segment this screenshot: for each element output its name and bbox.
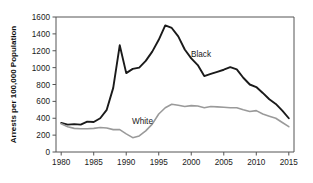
y-tick-label: 400 bbox=[36, 114, 50, 123]
x-tick-label: 1995 bbox=[150, 158, 169, 167]
y-tick-label: 1600 bbox=[32, 13, 51, 22]
series-label-white: White bbox=[132, 117, 153, 126]
y-tick-label: 0 bbox=[45, 148, 50, 157]
y-axis-title: Arrests per 100,000 Population bbox=[9, 26, 18, 143]
y-tick-label: 600 bbox=[36, 97, 50, 106]
y-tick-label: 1400 bbox=[32, 30, 51, 39]
x-tick-label: 2015 bbox=[280, 158, 299, 167]
line-chart: 02004006008001000120014001600 1980198519… bbox=[0, 0, 313, 183]
x-tick-label: 2005 bbox=[215, 158, 234, 167]
y-tick-label: 1000 bbox=[32, 64, 51, 73]
series-label-black: Black bbox=[191, 50, 212, 59]
chart-container: 02004006008001000120014001600 1980198519… bbox=[0, 0, 313, 183]
x-tick-label: 2000 bbox=[182, 158, 201, 167]
y-tick-label: 200 bbox=[36, 131, 50, 140]
y-tick-label: 1200 bbox=[32, 47, 51, 56]
x-tick-label: 2010 bbox=[247, 158, 266, 167]
plot-area bbox=[56, 17, 294, 152]
x-tick-label: 1980 bbox=[52, 158, 71, 167]
x-tick-label: 1990 bbox=[117, 158, 136, 167]
x-tick-label: 1985 bbox=[85, 158, 104, 167]
y-tick-label: 800 bbox=[36, 81, 50, 90]
